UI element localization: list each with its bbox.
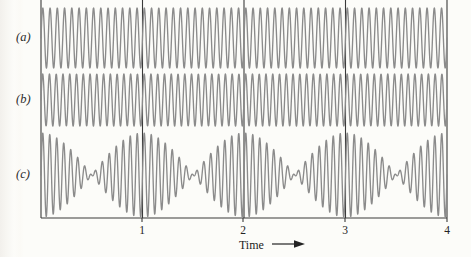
tick-label-1: 1 [132,224,152,236]
beats-figure: (a) (b) (c) 1 2 3 4 Time [0,0,471,257]
tick-label-3: 3 [335,224,355,236]
waveform-traces-group [41,8,447,217]
waveform-plot [0,0,471,257]
right-arrow-icon [272,238,306,253]
row-label-c: (c) [16,167,30,182]
row-label-a: (a) [16,30,31,45]
row-label-b: (b) [16,92,31,107]
tick-label-4: 4 [437,224,457,236]
x-axis-title: Time [239,237,306,253]
axis-ticks-group [142,218,447,222]
x-axis-title-text: Time [239,238,264,252]
tick-label-2: 2 [233,224,253,236]
